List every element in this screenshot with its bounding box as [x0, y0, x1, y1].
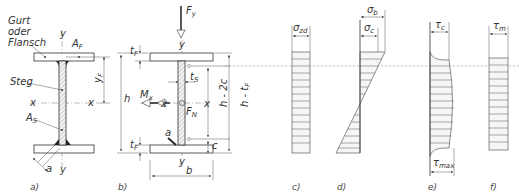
label-FN: FN [186, 106, 198, 119]
label-tau-c: τc [435, 19, 445, 32]
panel-f-mean-shear: τm f) [489, 20, 508, 192]
label-x-left: x [29, 97, 36, 108]
label-AS: AS [25, 112, 38, 125]
ibeam-stress-diagram: Gurt oder Flansch y AF Steg x x AS yF y … [0, 0, 519, 196]
label-a-weld: a [165, 127, 171, 138]
label-oder: oder [8, 26, 32, 37]
panel-label-f: f) [490, 182, 497, 192]
label-sigma-zd: σzd [293, 22, 308, 35]
panel-b-cross-section: Fy y tF h tS Mx x x FN a tF y b c h - 2c… [117, 5, 252, 192]
label-h: h [124, 93, 130, 104]
label-tau-m: τm [493, 20, 506, 33]
label-sigma-c: σc [364, 22, 374, 35]
panel-label-d: d) [337, 182, 346, 192]
label-tF-bottom: tF [130, 139, 139, 152]
panel-label-b: b) [118, 182, 127, 192]
label-a-weld: a [46, 163, 52, 174]
label-h-tF: h - tF [239, 82, 252, 107]
label-Mx: Mx [140, 89, 154, 102]
label-x-right: x [87, 97, 94, 108]
label-yF: yF [92, 72, 105, 84]
label-AF: AF [71, 38, 84, 51]
label-y-top: y [59, 28, 67, 39]
panel-a-cross-section: Gurt oder Flansch y AF Steg x x AS yF y … [8, 15, 110, 192]
label-y-top: y [178, 39, 186, 50]
label-c: c [212, 140, 218, 151]
label-Fy: Fy [186, 5, 197, 18]
label-h-2c: h - 2c [218, 78, 229, 107]
panel-label-a: a) [30, 182, 39, 192]
label-x-right: x [203, 98, 210, 109]
label-tF-top: tF [130, 45, 139, 58]
panel-c-uniform-stress: σzd c) [292, 22, 310, 192]
label-steg: Steg [10, 76, 33, 87]
label-gurt: Gurt [8, 15, 31, 26]
label-x-left: x [160, 98, 167, 109]
panel-e-shear-stress: τc τmax e) [428, 19, 455, 192]
label-tau-max: τmax [433, 157, 455, 170]
label-b: b [186, 165, 192, 176]
panel-label-e: e) [428, 182, 437, 192]
label-y-bottom: y [178, 156, 186, 167]
panel-label-c: c) [292, 182, 300, 192]
label-flansch: Flansch [8, 37, 46, 48]
panel-d-bending-stress: σb σc d) [336, 4, 385, 192]
label-y-bottom: y [59, 164, 67, 175]
label-sigma-b: σb [367, 4, 378, 17]
